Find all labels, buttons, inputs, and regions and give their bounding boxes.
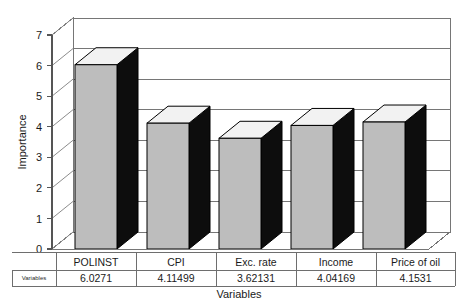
bar-chart-3d: 7 6 5 4 3 2 1 0 Importance <box>0 0 476 304</box>
y-tick-label-2: 2 <box>36 182 42 194</box>
table-header-income: Income <box>319 256 354 268</box>
table-value-exc-rate: 3.62131 <box>237 272 275 284</box>
bar-income <box>291 108 354 249</box>
table-header-price-of-oil: Price of oil <box>391 256 440 268</box>
y-tick-label-3: 3 <box>36 151 42 163</box>
bar-income-side <box>333 108 354 249</box>
table-value-cpi: 4.11499 <box>157 272 194 284</box>
y-tick-label-1: 1 <box>36 213 42 225</box>
chart-figure: 7 6 5 4 3 2 1 0 Importance <box>0 0 476 304</box>
bar-price-of-oil <box>363 105 426 249</box>
bar-exc-rate <box>219 121 282 249</box>
bar-cpi-front <box>147 123 189 249</box>
table-value-income: 4.04169 <box>317 272 355 284</box>
bar-exc-rate-side <box>261 121 282 249</box>
table-value-price-of-oil: 4.1531 <box>399 272 431 284</box>
bar-exc-rate-front <box>219 138 261 249</box>
table-row-label: Variables <box>22 275 47 281</box>
data-table: Variables POLINST CPI Exc. rate Income P… <box>12 252 455 286</box>
bar-polinst-side <box>117 48 138 249</box>
y-tick-label-5: 5 <box>36 90 42 102</box>
y-tick-label-4: 4 <box>36 121 42 133</box>
y-tick-label-0: 0 <box>36 243 42 255</box>
y-tick-labels: 7 6 5 4 3 2 1 0 <box>36 29 42 255</box>
bar-price-of-oil-front <box>363 122 405 249</box>
bar-cpi <box>147 106 210 249</box>
y-tick-label-6: 6 <box>36 60 42 72</box>
floor-right-edge <box>429 232 450 249</box>
table-header-exc-rate: Exc. rate <box>235 256 277 268</box>
table-value-polinst: 6.0271 <box>80 272 112 284</box>
left-wall <box>52 18 73 249</box>
table-header-polinst: POLINST <box>74 256 120 268</box>
table-header-cpi: CPI <box>167 256 185 268</box>
bar-polinst <box>75 48 138 249</box>
y-axis <box>47 35 52 249</box>
bar-price-of-oil-side <box>405 105 426 249</box>
bar-income-front <box>291 125 333 249</box>
bar-polinst-front <box>75 65 117 249</box>
bar-cpi-side <box>189 106 210 249</box>
y-axis-title: Importance <box>16 114 28 169</box>
y-tick-label-7: 7 <box>36 29 42 41</box>
x-axis-title: Variables <box>216 288 262 300</box>
